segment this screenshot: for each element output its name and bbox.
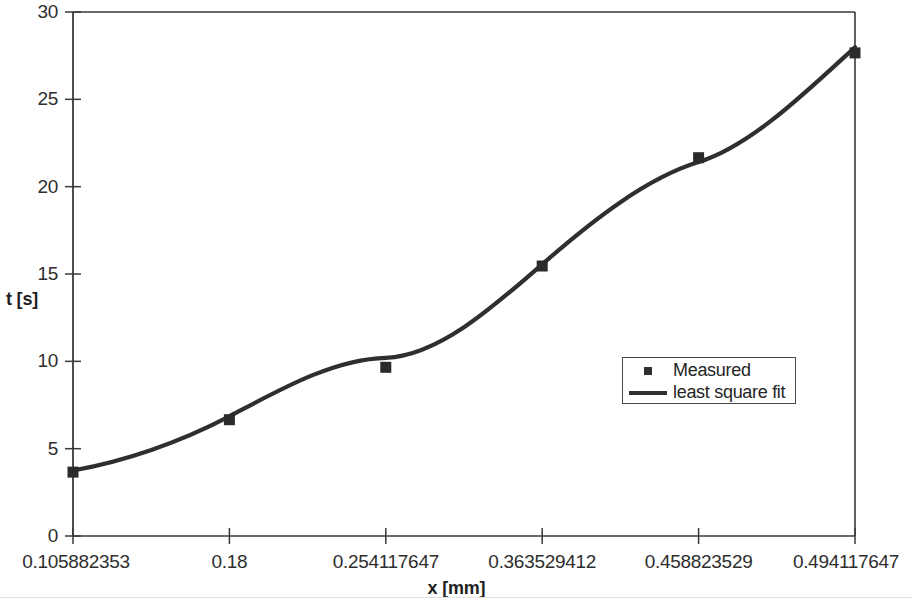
x-tick-label-3: 0.254117647: [333, 551, 439, 573]
data-point-marker: [850, 47, 861, 58]
chart-plot-svg: [0, 0, 913, 604]
y-tick-label-10: 10: [14, 350, 58, 372]
legend-label-measured: Measured: [673, 360, 751, 381]
y-tick-label-30: 30: [14, 1, 58, 23]
data-point-marker: [693, 152, 704, 163]
y-tick-label-15: 15: [14, 263, 58, 285]
x-tick-label-1: 0.105882353: [22, 551, 130, 573]
data-point-marker: [380, 362, 391, 373]
legend-line-swatch-icon: [623, 391, 673, 395]
y-axis-title: t [s]: [6, 289, 38, 310]
data-point-marker: [224, 414, 235, 425]
y-tick-label-20: 20: [14, 176, 58, 198]
x-tick-label-2: 0.18: [212, 551, 248, 573]
x-axis-title: x [mm]: [0, 578, 913, 599]
measured-data-points: [68, 47, 861, 477]
legend-square-marker-icon: [623, 367, 673, 375]
y-tick-label-25: 25: [14, 88, 58, 110]
x-tick-label-6: 0.494117647: [793, 551, 899, 573]
x-tick-label-5: 0.458823529: [645, 551, 753, 573]
scan-artifact-line: [0, 597, 913, 598]
legend-item-measured: Measured: [623, 359, 795, 382]
data-point-marker: [68, 467, 79, 478]
plot-frame: [73, 12, 855, 536]
chart-legend: Measured least square fit: [622, 357, 796, 404]
least-square-fit-curve: [73, 47, 855, 470]
legend-label-least-square-fit: least square fit: [673, 382, 785, 403]
x-tick-label-4: 0.363529412: [488, 551, 596, 573]
y-tick-label-5: 5: [14, 438, 58, 460]
data-point-marker: [537, 261, 548, 272]
y-tick-label-0: 0: [14, 525, 58, 547]
chart-container: 0 5 10 15 20 25 30 0.105882353 0.18 0.25…: [0, 0, 913, 604]
legend-item-least-square-fit: least square fit: [623, 381, 795, 404]
